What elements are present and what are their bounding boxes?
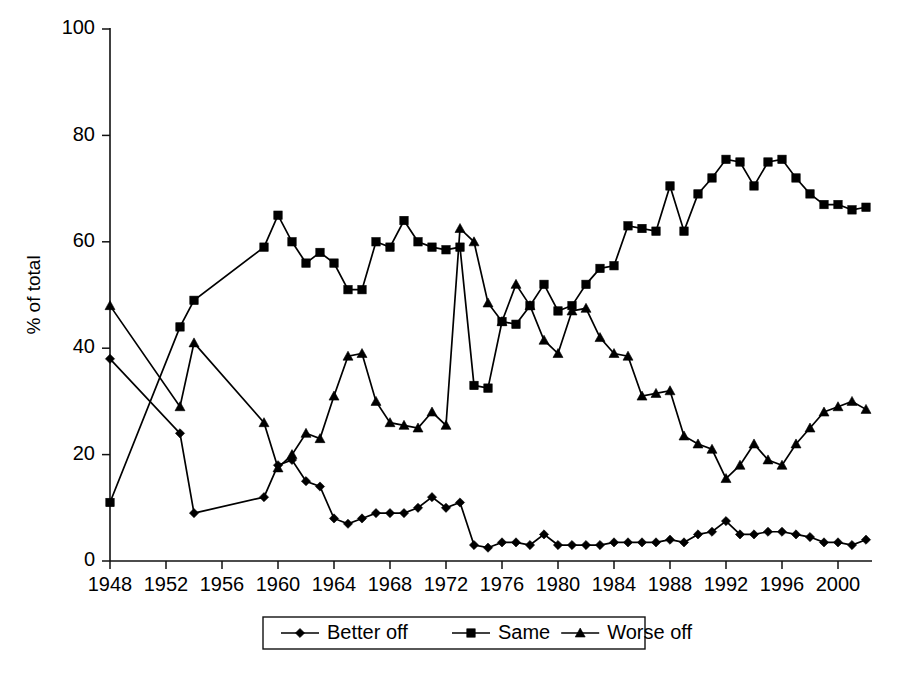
x-tick-label: 1964 (312, 573, 357, 595)
data-point (259, 493, 268, 502)
data-point (665, 386, 675, 395)
data-point (777, 527, 786, 536)
data-point (749, 439, 759, 448)
x-tick-label: 1976 (480, 573, 525, 595)
legend-label: Same (498, 621, 550, 643)
data-point (694, 190, 702, 198)
data-point (386, 243, 394, 251)
data-point (176, 323, 184, 331)
series-same (106, 155, 870, 507)
data-point (329, 514, 338, 523)
data-point (596, 264, 604, 272)
data-point (847, 540, 856, 549)
data-point (540, 280, 548, 288)
line-chart: 020406080100 % of total 1948195219561960… (0, 0, 908, 683)
data-point (358, 285, 366, 293)
y-tick-label: 20 (73, 442, 95, 464)
data-point (848, 206, 856, 214)
y-tick-group: 020406080100 (62, 16, 110, 570)
data-point (371, 509, 380, 518)
data-point (343, 519, 352, 528)
data-point (274, 211, 282, 219)
data-point (484, 384, 492, 392)
data-point (260, 243, 268, 251)
data-point (679, 538, 688, 547)
data-point (301, 477, 310, 486)
y-tick-label: 40 (73, 335, 95, 357)
data-point (344, 285, 352, 293)
data-point (315, 482, 324, 491)
x-tick-label: 1980 (536, 573, 581, 595)
data-point (638, 224, 646, 232)
data-point (567, 540, 576, 549)
y-tick-label: 0 (84, 548, 95, 570)
data-point (610, 262, 618, 270)
data-point (750, 182, 758, 190)
data-point (456, 243, 464, 251)
data-point (722, 155, 730, 163)
data-point (735, 460, 745, 469)
x-tick-label: 1948 (88, 573, 133, 595)
x-tick-label: 2000 (816, 573, 861, 595)
data-point (385, 509, 394, 518)
data-point (792, 174, 800, 182)
data-point (372, 238, 380, 246)
data-point (287, 450, 297, 459)
y-tick-label: 100 (62, 16, 95, 38)
data-point (385, 418, 395, 427)
data-point (511, 279, 521, 288)
data-point (399, 509, 408, 518)
data-point (693, 439, 703, 448)
data-point (861, 535, 870, 544)
data-point (455, 498, 464, 507)
legend-marker-square-icon (467, 629, 475, 637)
data-point (861, 404, 871, 413)
series-layer (105, 155, 871, 552)
data-point (330, 259, 338, 267)
y-tick-label: 60 (73, 229, 95, 251)
data-point (862, 203, 870, 211)
chart-legend: Better offSameWorse off (263, 617, 692, 649)
data-point (834, 200, 842, 208)
x-tick-label: 1960 (256, 573, 301, 595)
x-tick-label: 1972 (424, 573, 469, 595)
x-tick-label: 1956 (200, 573, 245, 595)
data-point (427, 407, 437, 416)
data-point (539, 335, 549, 344)
data-point (637, 538, 646, 547)
data-point (189, 338, 199, 347)
data-point (302, 259, 310, 267)
series-worse-off (105, 224, 871, 483)
x-tick-label: 1968 (368, 573, 413, 595)
data-point (665, 535, 674, 544)
data-point (400, 216, 408, 224)
data-point (847, 396, 857, 405)
y-axis-title: % of total (23, 255, 44, 334)
data-point (428, 243, 436, 251)
data-point (189, 509, 198, 518)
x-tick-group: 1948195219561960196419681972197619801984… (88, 561, 861, 595)
data-point (483, 298, 493, 307)
data-point (595, 333, 605, 342)
legend-label: Worse off (607, 621, 692, 643)
data-point (679, 431, 689, 440)
data-point (582, 280, 590, 288)
x-tick-label: 1988 (648, 573, 693, 595)
data-point (805, 532, 814, 541)
data-point (105, 301, 115, 310)
data-point (791, 530, 800, 539)
data-point (581, 540, 590, 549)
data-point (554, 307, 562, 315)
data-point (764, 158, 772, 166)
y-tick-label: 80 (73, 123, 95, 145)
data-point (819, 538, 828, 547)
data-point (806, 190, 814, 198)
data-point (680, 227, 688, 235)
data-point (749, 530, 758, 539)
data-point (357, 349, 367, 358)
data-point (357, 514, 366, 523)
data-point (623, 538, 632, 547)
data-point (511, 538, 520, 547)
x-tick-label: 1992 (704, 573, 749, 595)
data-point (736, 158, 744, 166)
